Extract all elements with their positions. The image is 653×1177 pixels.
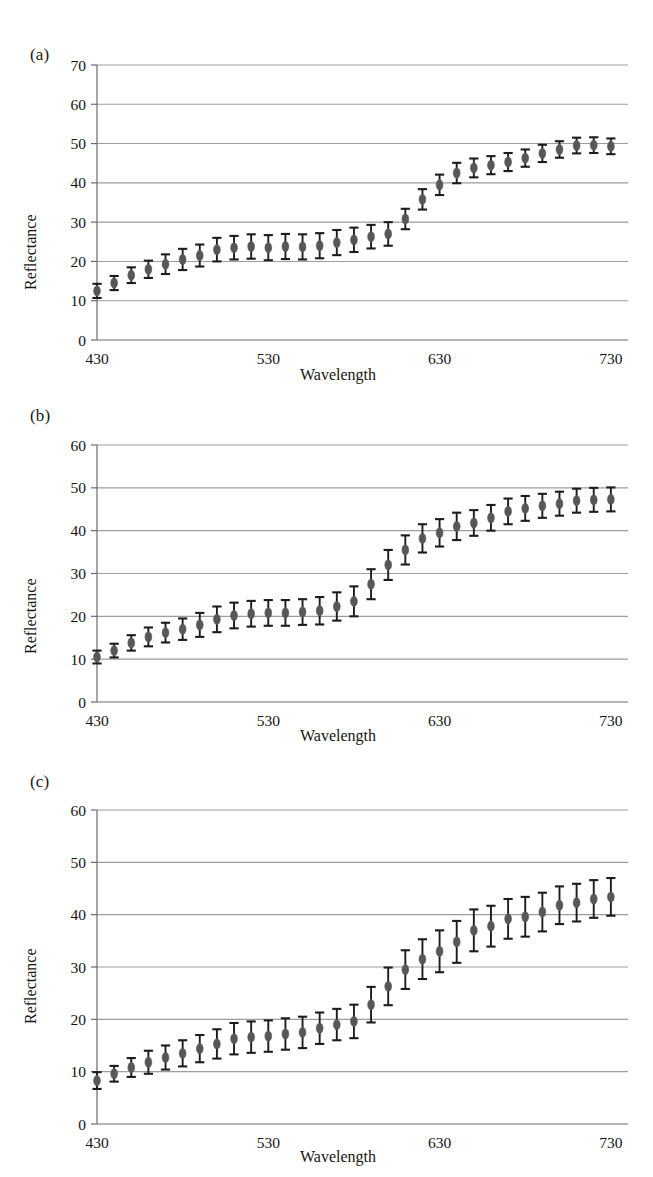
data-point xyxy=(349,1005,358,1038)
data-point xyxy=(589,880,598,918)
svg-text:730: 730 xyxy=(599,712,623,729)
svg-text:430: 430 xyxy=(85,1134,109,1151)
data-point xyxy=(435,175,444,195)
data-point xyxy=(606,878,615,916)
svg-text:60: 60 xyxy=(71,802,87,819)
data-point xyxy=(298,1017,307,1048)
data-point xyxy=(521,496,530,521)
data-point xyxy=(247,601,256,627)
data-point xyxy=(264,1020,273,1051)
data-point xyxy=(589,488,598,512)
data-point xyxy=(469,909,478,951)
svg-text:40: 40 xyxy=(71,522,87,539)
data-point xyxy=(127,267,136,283)
svg-text:10: 10 xyxy=(71,1063,87,1080)
data-point xyxy=(349,586,358,616)
data-point xyxy=(298,234,307,259)
data-point xyxy=(366,225,375,249)
data-point xyxy=(384,968,393,1006)
svg-text:0: 0 xyxy=(78,694,86,711)
svg-text:0: 0 xyxy=(78,1116,86,1133)
svg-text:40: 40 xyxy=(71,174,87,191)
y-axis-title-c: Reflectance xyxy=(22,949,40,1025)
data-point xyxy=(572,138,581,154)
svg-text:20: 20 xyxy=(71,1011,87,1028)
data-point xyxy=(144,1051,153,1074)
data-point xyxy=(452,921,461,963)
data-point xyxy=(503,899,512,939)
svg-text:530: 530 xyxy=(257,350,281,367)
data-point xyxy=(606,487,615,511)
plot-area-b: 0102030405060430530630730 xyxy=(0,392,653,754)
data-point xyxy=(555,492,564,516)
data-point xyxy=(349,228,358,252)
svg-text:530: 530 xyxy=(257,712,281,729)
data-point xyxy=(538,893,547,932)
data-point xyxy=(384,550,393,580)
data-point xyxy=(212,1029,221,1058)
data-point xyxy=(92,284,101,298)
x-axis-title-b: Wavelength xyxy=(300,727,376,745)
data-point xyxy=(161,254,170,274)
y-axis-title-a: Reflectance xyxy=(22,215,40,291)
data-point xyxy=(384,222,393,246)
svg-text:30: 30 xyxy=(71,565,87,582)
data-point xyxy=(606,138,615,154)
data-point xyxy=(366,987,375,1023)
data-point xyxy=(589,137,598,153)
data-point xyxy=(452,513,461,540)
data-point xyxy=(264,600,273,626)
data-point xyxy=(195,245,204,267)
data-point xyxy=(435,930,444,972)
data-point xyxy=(281,600,290,626)
svg-text:70: 70 xyxy=(71,57,87,74)
svg-text:630: 630 xyxy=(428,350,452,367)
svg-text:50: 50 xyxy=(71,479,87,496)
chart-panel-c: (c) 0102030405060430530630730 Reflectanc… xyxy=(0,754,653,1177)
data-point xyxy=(555,886,564,924)
data-point xyxy=(332,230,341,255)
data-point xyxy=(212,238,221,262)
data-point xyxy=(298,599,307,625)
svg-text:630: 630 xyxy=(428,1134,452,1151)
svg-text:50: 50 xyxy=(71,854,87,871)
data-point xyxy=(435,519,444,546)
svg-text:20: 20 xyxy=(71,608,87,625)
data-point xyxy=(503,153,512,171)
data-point xyxy=(110,276,119,290)
data-point xyxy=(229,603,238,629)
data-point xyxy=(503,499,512,525)
data-point xyxy=(315,1013,324,1044)
svg-text:10: 10 xyxy=(71,292,87,309)
data-point xyxy=(127,635,136,650)
svg-text:430: 430 xyxy=(85,712,109,729)
svg-text:630: 630 xyxy=(428,712,452,729)
svg-text:530: 530 xyxy=(257,1134,281,1151)
data-point xyxy=(572,884,581,922)
data-point xyxy=(212,606,221,632)
data-point xyxy=(486,505,495,531)
data-point xyxy=(127,1058,136,1077)
svg-text:730: 730 xyxy=(599,350,623,367)
data-point xyxy=(401,950,410,989)
svg-text:50: 50 xyxy=(71,135,87,152)
data-point xyxy=(332,1009,341,1040)
data-point xyxy=(486,156,495,174)
data-point xyxy=(247,1021,256,1052)
data-point xyxy=(418,189,427,209)
data-point xyxy=(229,236,238,260)
data-point xyxy=(401,535,410,564)
svg-text:430: 430 xyxy=(85,350,109,367)
data-point xyxy=(469,159,478,178)
data-point xyxy=(469,510,478,536)
svg-text:30: 30 xyxy=(71,214,87,231)
y-axis-title-b: Reflectance xyxy=(22,579,40,655)
data-point xyxy=(521,149,530,166)
figure-reflectance-spectra: (a) 010203040506070430530630730 Reflecta… xyxy=(0,0,653,1177)
svg-text:0: 0 xyxy=(78,332,86,349)
chart-panel-b: (b) 0102030405060430530630730 Reflectanc… xyxy=(0,392,653,754)
data-point xyxy=(401,209,410,229)
data-point xyxy=(92,1072,101,1089)
x-axis-title-a: Wavelength xyxy=(300,366,376,384)
data-point xyxy=(486,906,495,947)
